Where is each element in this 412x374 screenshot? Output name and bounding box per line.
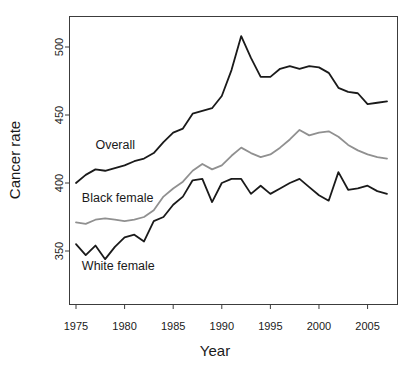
series-label-white-female: White female — [82, 259, 155, 273]
y-tick-label: 400 — [53, 174, 65, 192]
chart-svg: 350400450500 197519801985199019952000200… — [0, 0, 412, 374]
series-line-white-female — [76, 172, 387, 259]
series-label-black-female: Black female — [82, 191, 154, 205]
x-axis-title: Year — [200, 342, 230, 359]
y-axis: 350400450500 — [53, 38, 70, 260]
x-tick-label: 1980 — [112, 320, 136, 332]
x-tick-label: 1985 — [161, 320, 185, 332]
x-tick-label: 2005 — [355, 320, 379, 332]
y-tick-label: 450 — [53, 106, 65, 124]
x-tick-label: 1975 — [64, 320, 88, 332]
y-tick-label: 500 — [53, 38, 65, 56]
y-tick-label: 350 — [53, 242, 65, 260]
x-tick-label: 1995 — [258, 320, 282, 332]
y-axis-title: Cancer rate — [6, 121, 23, 199]
cancer-rate-line-chart: 350400450500 197519801985199019952000200… — [0, 0, 412, 374]
series-label-overall: Overall — [95, 138, 135, 152]
x-tick-label: 1990 — [210, 320, 234, 332]
x-tick-label: 2000 — [307, 320, 331, 332]
series-line-overall — [76, 36, 387, 183]
x-axis: 1975198019851990199520002005 — [64, 304, 380, 332]
